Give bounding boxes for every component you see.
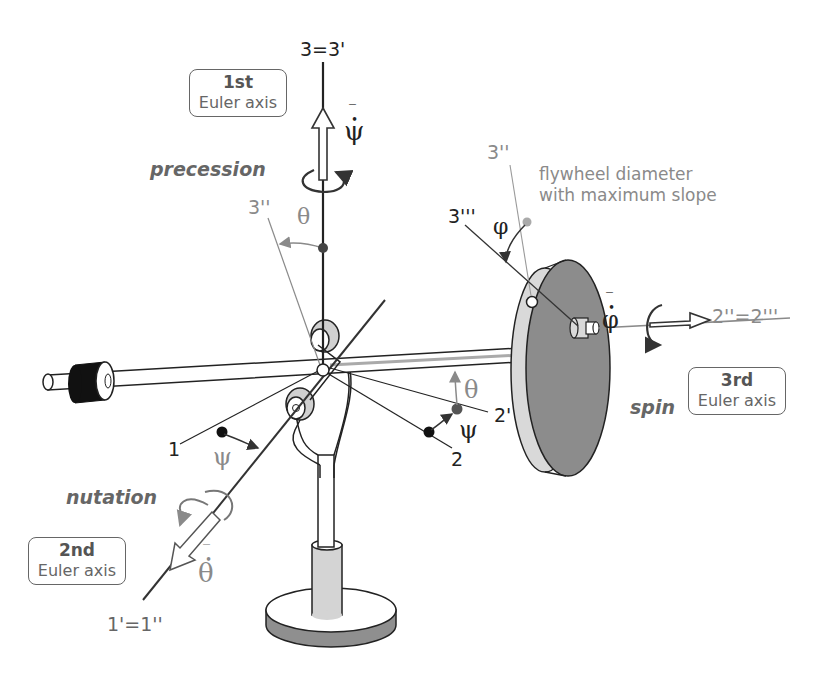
label-3-triple-prime: 3''' [448, 207, 476, 226]
precession-label: precession [150, 160, 266, 179]
pivot-point [317, 364, 329, 376]
flywheel [511, 260, 610, 476]
label-2dprime-eq-2tprime: 2''=2''' [712, 307, 778, 326]
label-3-double-prime-right: 3'' [487, 143, 510, 162]
axis-3-double-prime [268, 218, 320, 365]
first-axis-name: Euler axis [196, 93, 280, 112]
psi-dot-symbol: ‾ • ψ [344, 118, 364, 144]
spin-arrow [650, 313, 710, 328]
phi-dot-symbol: ‾ • φ [602, 308, 619, 332]
nutation-label: nutation [66, 488, 157, 507]
second-euler-axis-box: 2nd Euler axis [28, 537, 126, 585]
label-1prime-eq-1dprime: 1'=1'' [107, 615, 163, 634]
precession-arrow [312, 108, 334, 180]
diagram-drawing [0, 0, 834, 685]
label-3-double-prime-left: 3'' [248, 198, 271, 217]
label-2-prime: 2' [494, 406, 511, 425]
theta-label-top: θ [297, 206, 310, 228]
label-3-eq-3prime: 3=3' [300, 40, 345, 59]
phi-label: φ [493, 216, 508, 238]
psi-label-left: ψ [213, 445, 232, 469]
stand-base [266, 540, 396, 647]
flywheel-diameter-annotation: flywheel diameter with maximum slope [539, 164, 717, 207]
gyroscope-diagram: 3=3' 1st Euler axis ‾ • ψ precession 3''… [0, 0, 834, 685]
second-axis-name: Euler axis [35, 561, 119, 580]
theta-dot-symbol: ‾ • θ [198, 560, 214, 586]
third-euler-axis-box: 3rd Euler axis [688, 367, 786, 415]
psi-label-right: ψ [459, 418, 478, 442]
label-1: 1 [168, 440, 180, 459]
counterweight [68, 362, 114, 403]
spin-label: spin [630, 398, 675, 417]
first-euler-axis-box: 1st Euler axis [189, 69, 287, 117]
third-axis-name: Euler axis [695, 391, 779, 410]
second-axis-ordinal: 2nd [35, 541, 119, 561]
theta-label-right: θ [464, 378, 478, 402]
first-axis-ordinal: 1st [196, 73, 280, 93]
third-axis-ordinal: 3rd [695, 371, 779, 391]
label-2: 2 [451, 450, 463, 469]
